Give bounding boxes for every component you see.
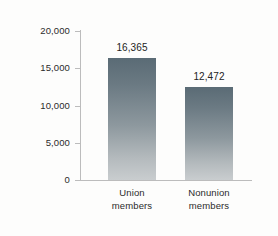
x-axis-line	[80, 180, 252, 181]
bar-value-nonunion-members: 12,472	[174, 71, 244, 83]
y-tick-label-5000: 5,000	[6, 138, 70, 148]
y-tick-label-0-wrap: 0	[6, 175, 70, 185]
x-category-label-nonunion-members: Nonunion members	[166, 187, 252, 212]
y-tick-label-10000: 10,000	[6, 101, 70, 111]
y-tick-mark-10000	[75, 106, 80, 107]
y-tick-label-20000-wrap: 20,000	[6, 26, 70, 36]
y-tick-mark-5000	[75, 143, 80, 144]
y-tick-mark-0	[75, 180, 80, 181]
y-tick-label-15000-wrap: 15,000	[6, 63, 70, 73]
y-tick-label-15000: 15,000	[6, 63, 70, 73]
y-axis-line	[80, 30, 81, 181]
y-tick-label-0: 0	[6, 175, 70, 185]
bar-nonunion-members[interactable]	[185, 87, 233, 180]
plot-area: 20,000 15,000 10,000 5,000 0 16,365 12,4…	[80, 28, 260, 180]
y-tick-mark-15000	[75, 68, 80, 69]
bar-chart: Number of employees 20,000 15,000 10,000…	[0, 0, 278, 236]
x-category-label-union-members: Union members	[89, 187, 175, 212]
y-tick-mark-20000	[75, 31, 80, 32]
x-category-label-nonunion-members-line1: Nonunion	[166, 187, 252, 200]
x-category-label-union-members-line1: Union	[89, 187, 175, 200]
bar-value-union-members: 16,365	[97, 42, 167, 54]
x-category-label-union-members-line2: members	[89, 200, 175, 213]
y-tick-label-5000-wrap: 5,000	[6, 138, 70, 148]
bar-union-members[interactable]	[108, 58, 156, 180]
x-category-label-nonunion-members-line2: members	[166, 200, 252, 213]
y-tick-label-10000-wrap: 10,000	[6, 101, 70, 111]
y-tick-label-20000: 20,000	[6, 26, 70, 36]
